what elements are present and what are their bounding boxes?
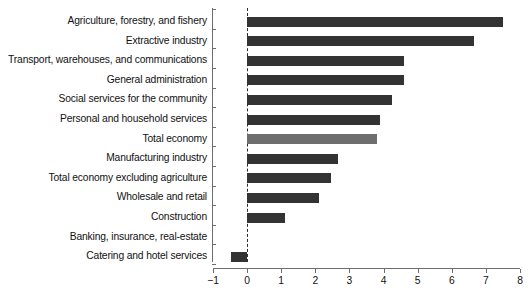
y-axis-tick [212,264,216,265]
bar [247,75,404,85]
y-axis-tick [212,225,216,226]
x-axis-tick [452,269,453,273]
x-axis-tick [281,269,282,273]
bar [247,134,377,144]
y-axis-tick [212,127,216,128]
x-axis-tick-label: 5 [403,275,433,287]
x-axis-tick [213,269,214,273]
x-axis-line [213,268,520,269]
y-axis-tick [212,68,216,69]
category-label: Social services for the community [0,93,207,104]
bar [247,95,392,105]
category-label: Wholesale and retail [0,191,207,202]
y-axis-tick [212,107,216,108]
plot-area [213,8,523,262]
y-axis-tick [212,88,216,89]
x-axis-tick-label: 7 [471,275,501,287]
bar [247,213,285,223]
category-label: Agriculture, forestry, and fishery [0,15,207,26]
x-axis-tick-label: 2 [300,275,330,287]
x-axis-tick [384,269,385,273]
category-label: Catering and hotel services [0,250,207,261]
bar [247,56,404,66]
category-label: Total economy excluding agriculture [0,172,207,183]
x-axis-tick-label: 4 [369,275,399,287]
x-axis-tick [247,269,248,273]
bar-chart: Agriculture, forestry, and fisheryExtrac… [0,0,531,298]
category-label: Manufacturing industry [0,152,207,163]
category-label: General administration [0,74,207,85]
bar [231,252,247,262]
x-axis-tick-label: 8 [505,275,531,287]
category-label: Personal and household services [0,113,207,124]
y-axis-tick [212,244,216,245]
x-axis-tick-label: 1 [266,275,296,287]
y-axis-tick [212,146,216,147]
x-axis-tick-label: 6 [437,275,467,287]
x-axis-tick [315,269,316,273]
bar [247,115,380,125]
x-axis-tick [520,269,521,273]
bar [247,36,474,46]
category-label: Extractive industry [0,35,207,46]
category-label: Transport, warehouses, and communication… [0,54,207,65]
category-label: Total economy [0,133,207,144]
x-axis-tick [486,269,487,273]
x-axis-tick [349,269,350,273]
y-axis-tick [212,48,216,49]
bar [247,17,503,27]
y-axis-tick [212,9,216,10]
bar [247,193,319,203]
x-axis-tick-label: −1 [198,275,228,287]
x-axis-tick-label: 0 [232,275,262,287]
x-axis-tick [418,269,419,273]
category-label: Construction [0,211,207,222]
x-axis-tick-label: 3 [334,275,364,287]
category-axis-labels: Agriculture, forestry, and fisheryExtrac… [0,8,207,262]
bar [247,173,331,183]
category-label: Banking, insurance, real-estate [0,231,207,242]
y-axis-tick [212,186,216,187]
y-axis-tick [212,29,216,30]
bar [247,154,337,164]
y-axis-tick [212,205,216,206]
y-axis-tick [212,166,216,167]
